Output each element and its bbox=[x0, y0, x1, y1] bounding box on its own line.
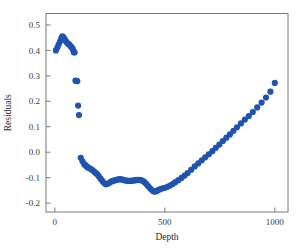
data-point bbox=[263, 94, 269, 100]
data-point bbox=[259, 99, 265, 105]
y-tick-label: 0.5 bbox=[29, 20, 41, 30]
y-tick-label: 0.2 bbox=[29, 96, 40, 106]
y-tick-label: 0.4 bbox=[29, 46, 41, 56]
y-tick-label: 0.0 bbox=[29, 147, 41, 157]
data-point bbox=[72, 49, 78, 55]
data-point bbox=[254, 104, 260, 110]
y-tick-label: 0.1 bbox=[29, 122, 40, 132]
data-point bbox=[76, 112, 82, 118]
x-tick-label: 500 bbox=[158, 217, 172, 227]
y-tick-label: -0.1 bbox=[26, 173, 40, 183]
x-tick-label: 1000 bbox=[266, 217, 285, 227]
x-tick-label: 0 bbox=[53, 217, 58, 227]
y-tick-label: 0.3 bbox=[29, 71, 41, 81]
scatter-plot: -0.2-0.10.00.10.20.30.40.5 05001000 Dept… bbox=[0, 0, 301, 249]
data-point bbox=[74, 78, 80, 84]
figure-container: -0.2-0.10.00.10.20.30.40.5 05001000 Dept… bbox=[0, 0, 301, 249]
data-point bbox=[272, 80, 278, 86]
y-axis-title: Residuals bbox=[3, 94, 13, 131]
y-tick-label: -0.2 bbox=[26, 198, 40, 208]
data-point bbox=[250, 109, 256, 115]
x-axis-title: Depth bbox=[155, 232, 178, 242]
data-point bbox=[267, 89, 273, 95]
data-point bbox=[75, 103, 81, 109]
